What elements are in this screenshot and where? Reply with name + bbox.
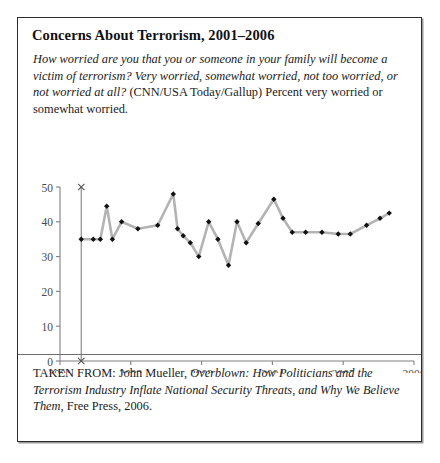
svg-text:40: 40 (42, 216, 54, 228)
data-line (81, 194, 389, 265)
svg-text:30: 30 (42, 251, 54, 263)
figure-box: Concerns About Terrorism, 2001–2006 How … (17, 17, 422, 442)
line-chart: 01020304050 200120022003200420052006 (18, 143, 421, 373)
survey-question-text: How worried are you that you or someone … (33, 51, 408, 117)
svg-text:50: 50 (42, 182, 54, 194)
caption-suffix: , Free Press, 2006. (61, 399, 153, 413)
caption-prefix: TAKEN FROM: John Mueller, (33, 366, 190, 380)
series-start-marker-axis (78, 184, 84, 364)
chart-svg: 01020304050 200120022003200420052006 (18, 143, 421, 373)
caption-divider (18, 354, 421, 355)
y-axis: 01020304050 (42, 182, 61, 368)
source-caption: TAKEN FROM: John Mueller, Overblown: How… (33, 365, 411, 415)
svg-text:10: 10 (42, 321, 54, 333)
figure-title: Concerns About Terrorism, 2001–2006 (32, 27, 412, 44)
svg-text:20: 20 (42, 286, 54, 298)
